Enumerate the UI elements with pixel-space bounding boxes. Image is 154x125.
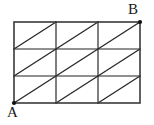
diagonal-r1c1 (14, 22, 56, 49)
diagonal-r1c3 (98, 22, 140, 49)
diagonal-r1c2 (56, 22, 98, 49)
grid-diagram (0, 0, 154, 125)
diagonal-r2c3 (98, 49, 140, 76)
point-a-label: A (7, 105, 18, 120)
diagonal-r3c2 (56, 76, 98, 103)
diagonal-r3c3 (98, 76, 140, 103)
diagonal-r2c1 (14, 49, 56, 76)
point-b-label: B (128, 2, 138, 17)
cell-diagonals (14, 22, 140, 103)
grid-figure: A B (0, 0, 154, 125)
diagonal-r2c2 (56, 49, 98, 76)
point-b-dot (138, 20, 142, 24)
diagonal-r3c1 (14, 76, 56, 103)
